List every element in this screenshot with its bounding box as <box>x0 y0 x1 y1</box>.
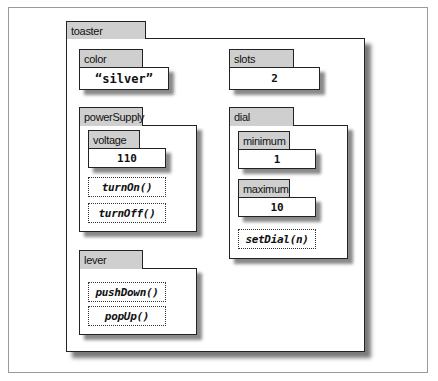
powerSupply-object-label: powerSupply <box>79 107 143 126</box>
minimum-property-label: minimum <box>238 131 290 149</box>
voltage-property-value: 110 <box>88 148 166 168</box>
voltage-property-label: voltage <box>88 130 140 148</box>
color-property-label: color <box>79 49 143 67</box>
turnOn-method: turnOn() <box>88 177 166 197</box>
pushDown-method: pushDown() <box>88 282 166 302</box>
minimum-property-value: 1 <box>238 149 316 169</box>
maximum-property-value: 10 <box>238 197 316 217</box>
toaster-object-label: toaster <box>66 21 146 39</box>
color-property-value: “silver” <box>79 67 169 90</box>
slots-property-label: slots <box>229 49 294 67</box>
popUp-method: popUp() <box>88 306 166 326</box>
slots-property-value: 2 <box>229 67 320 90</box>
turnOff-method: turnOff() <box>88 203 166 223</box>
lever-object-label: lever <box>79 250 143 269</box>
maximum-property-label: maximum <box>238 179 290 197</box>
dial-object-label: dial <box>229 107 294 126</box>
setDial-method: setDial(n) <box>238 229 316 249</box>
